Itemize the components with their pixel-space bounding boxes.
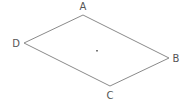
edge-cd (24, 43, 110, 86)
vertex-label-a: A (80, 1, 87, 12)
vertex-label-d: D (12, 38, 20, 49)
edge-bc (110, 58, 169, 86)
edge-ab (83, 15, 169, 58)
parallelogram-diagram: A B C D (0, 0, 186, 105)
edge-da (24, 15, 83, 43)
vertex-label-b: B (173, 53, 180, 64)
vertex-label-c: C (107, 90, 114, 101)
center-point (96, 50, 98, 52)
